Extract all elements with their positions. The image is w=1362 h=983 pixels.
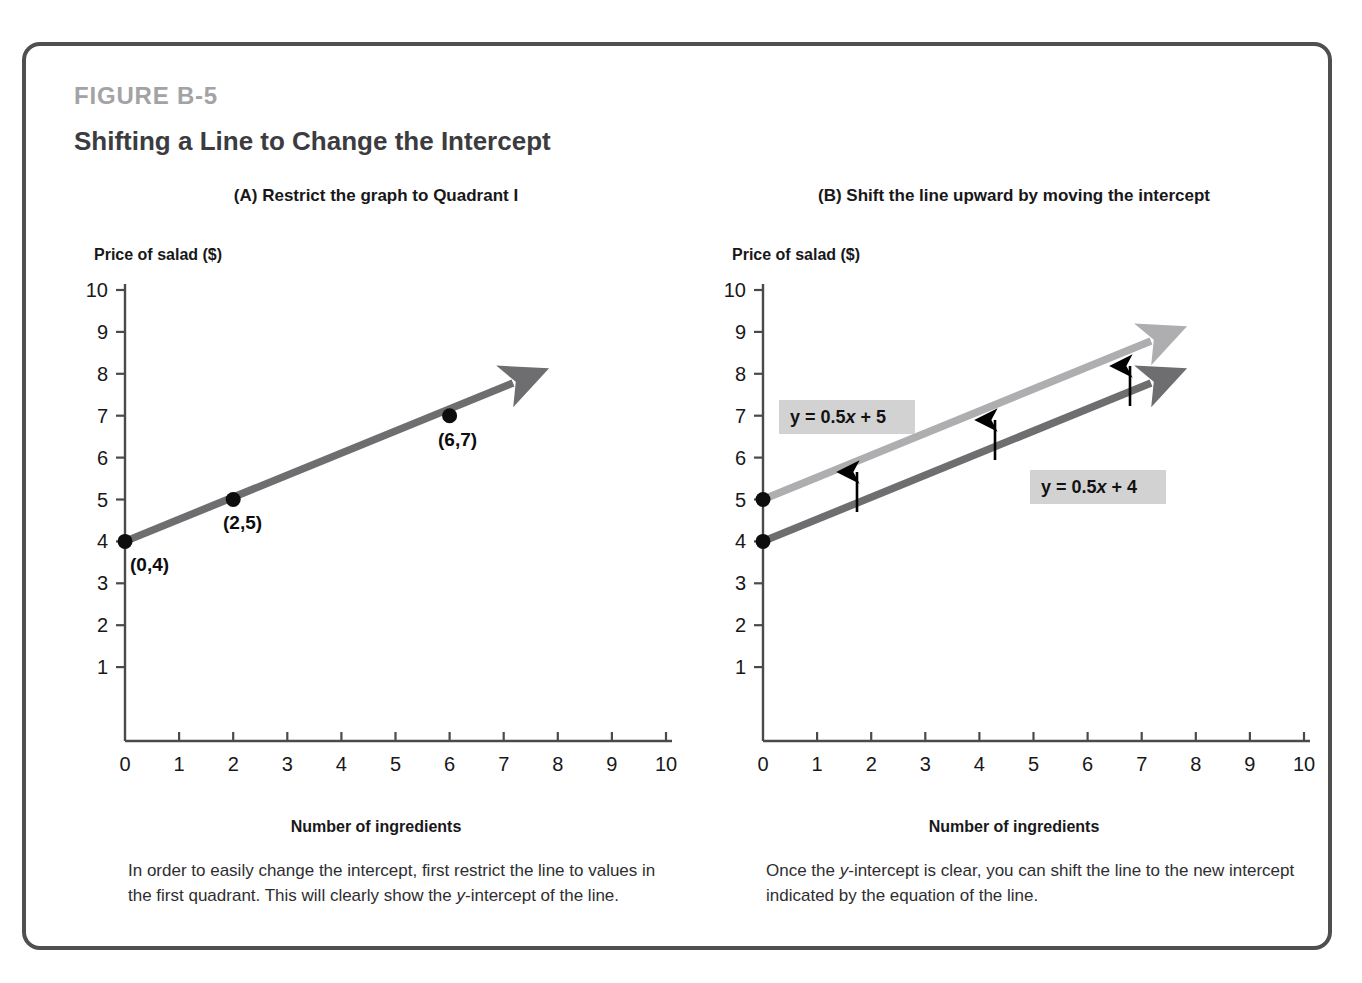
panel-b-point-0-5 bbox=[756, 492, 771, 507]
panel-b-xtick-0: 0 bbox=[757, 753, 768, 775]
panel-b-caption-pre: Once the bbox=[766, 861, 840, 880]
panel-b-x-ticks: 0 1 2 3 4 5 6 7 8 9 10 bbox=[757, 732, 1315, 775]
panel-a-x-axis-title: Number of ingredients bbox=[66, 818, 686, 836]
panel-a-caption-y-ital: y bbox=[457, 886, 466, 905]
panel-a-xtick-4: 4 bbox=[336, 753, 347, 775]
panel-b-xtick-7: 7 bbox=[1136, 753, 1147, 775]
equation-label-lower: y = 0.5x + 4 bbox=[1030, 470, 1166, 504]
panel-b-caption-post: -intercept is clear, you can shift the l… bbox=[848, 861, 1188, 880]
panel-b: (B) Shift the line upward by moving the … bbox=[704, 186, 1324, 916]
panel-b-point-0-4 bbox=[756, 534, 771, 549]
panel-a-xtick-10: 10 bbox=[655, 753, 677, 775]
panel-b-x-axis-title: Number of ingredients bbox=[704, 818, 1324, 836]
panel-b-ytick-6: 6 bbox=[735, 447, 746, 469]
panel-a-line-series bbox=[125, 383, 513, 541]
panel-a-point-2-5 bbox=[226, 492, 241, 507]
panel-a-ytick-1: 1 bbox=[97, 656, 108, 678]
panel-a-point-label-0-4: (0,4) bbox=[130, 554, 169, 575]
panel-a-xtick-1: 1 bbox=[174, 753, 185, 775]
panel-a: (A) Restrict the graph to Quadrant I Pri… bbox=[66, 186, 686, 916]
panel-b-ytick-10: 10 bbox=[724, 279, 746, 301]
figure-title: Shifting a Line to Change the Intercept bbox=[74, 126, 551, 157]
panel-b-xtick-2: 2 bbox=[866, 753, 877, 775]
panel-a-xtick-2: 2 bbox=[228, 753, 239, 775]
panel-a-caption-line3: -intercept of the line. bbox=[465, 886, 619, 905]
panel-a-x-ticks: 0 1 2 3 4 5 6 7 8 9 10 bbox=[119, 732, 677, 775]
panel-b-xtick-6: 6 bbox=[1082, 753, 1093, 775]
svg-text:y = 0.5x + 4: y = 0.5x + 4 bbox=[1041, 477, 1137, 497]
panel-a-y-ticks: 10 9 8 7 6 5 4 3 2 1 bbox=[86, 279, 125, 678]
panel-b-xtick-8: 8 bbox=[1190, 753, 1201, 775]
panel-b-xtick-5: 5 bbox=[1028, 753, 1039, 775]
panel-b-ytick-9: 9 bbox=[735, 321, 746, 343]
panel-a-point-label-2-5: (2,5) bbox=[223, 512, 262, 533]
panel-a-heading: (A) Restrict the graph to Quadrant I bbox=[66, 186, 686, 206]
panel-b-ytick-8: 8 bbox=[735, 363, 746, 385]
eq-lower-part1: y = 0.5 bbox=[1041, 477, 1097, 497]
panel-b-xtick-1: 1 bbox=[812, 753, 823, 775]
panel-a-axes bbox=[125, 284, 672, 741]
panel-a-xtick-3: 3 bbox=[282, 753, 293, 775]
panel-a-ytick-3: 3 bbox=[97, 572, 108, 594]
panel-a-ytick-7: 7 bbox=[97, 405, 108, 427]
panel-b-y-axis-title: Price of salad ($) bbox=[732, 246, 860, 264]
panel-a-caption: In order to easily change the intercept,… bbox=[128, 858, 668, 908]
figure-card: FIGURE B-5 Shifting a Line to Change the… bbox=[22, 42, 1332, 950]
panel-b-y-ticks: 10 9 8 7 6 5 4 3 2 1 bbox=[724, 279, 763, 678]
eq-upper-part2: + 5 bbox=[856, 407, 887, 427]
panel-a-point-6-7 bbox=[442, 408, 457, 423]
panel-b-heading: (B) Shift the line upward by moving the … bbox=[704, 186, 1324, 206]
panel-a-y-axis-title: Price of salad ($) bbox=[94, 246, 222, 264]
panel-a-xtick-9: 9 bbox=[606, 753, 617, 775]
panel-b-caption: Once the y-intercept is clear, you can s… bbox=[766, 858, 1306, 908]
panel-b-axes bbox=[763, 284, 1310, 741]
panel-b-xtick-4: 4 bbox=[974, 753, 985, 775]
panel-a-xtick-5: 5 bbox=[390, 753, 401, 775]
panel-a-plot: 10 9 8 7 6 5 4 3 2 1 bbox=[66, 276, 686, 816]
panel-a-xtick-6: 6 bbox=[444, 753, 455, 775]
panel-b-ytick-7: 7 bbox=[735, 405, 746, 427]
panel-a-ytick-5: 5 bbox=[97, 489, 108, 511]
panel-b-ytick-2: 2 bbox=[735, 614, 746, 636]
panel-a-xtick-7: 7 bbox=[498, 753, 509, 775]
panel-a-caption-line1: In order to easily change the intercept,… bbox=[128, 861, 565, 880]
panel-a-xtick-0: 0 bbox=[119, 753, 130, 775]
panel-b-ytick-5: 5 bbox=[735, 489, 746, 511]
panel-b-plot: 10 9 8 7 6 5 4 3 2 1 bbox=[704, 276, 1324, 816]
panel-a-xtick-8: 8 bbox=[552, 753, 563, 775]
svg-text:y = 0.5x + 5: y = 0.5x + 5 bbox=[790, 407, 886, 427]
panel-a-ytick-10: 10 bbox=[86, 279, 108, 301]
eq-upper-part1: y = 0.5 bbox=[790, 407, 846, 427]
panel-a-ytick-4: 4 bbox=[97, 530, 108, 552]
panel-b-ytick-3: 3 bbox=[735, 572, 746, 594]
panel-b-ytick-1: 1 bbox=[735, 656, 746, 678]
equation-label-upper: y = 0.5x + 5 bbox=[779, 400, 915, 434]
panel-b-xtick-10: 10 bbox=[1293, 753, 1315, 775]
figure-number: FIGURE B-5 bbox=[74, 82, 218, 110]
panel-a-point-label-6-7: (6,7) bbox=[438, 429, 477, 450]
panel-b-xtick-9: 9 bbox=[1244, 753, 1255, 775]
panel-b-ytick-4: 4 bbox=[735, 530, 746, 552]
panel-a-ytick-9: 9 bbox=[97, 321, 108, 343]
panel-a-ytick-8: 8 bbox=[97, 363, 108, 385]
panel-a-ytick-6: 6 bbox=[97, 447, 108, 469]
panel-b-xtick-3: 3 bbox=[920, 753, 931, 775]
panel-a-point-0-4 bbox=[118, 534, 133, 549]
panel-a-ytick-2: 2 bbox=[97, 614, 108, 636]
panel-b-caption-y-ital: y bbox=[840, 861, 849, 880]
eq-lower-part2: + 4 bbox=[1107, 477, 1138, 497]
